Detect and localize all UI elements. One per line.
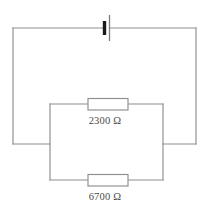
circuit-schematic-svg bbox=[0, 0, 210, 215]
resistor-top-label: 2300 Ω bbox=[0, 115, 210, 126]
resistor-bottom-label: 6700 Ω bbox=[0, 191, 210, 202]
resistor-top-body bbox=[88, 99, 128, 111]
circuit-diagram: 2300 Ω 6700 Ω bbox=[0, 0, 210, 215]
resistor-bottom-body bbox=[88, 175, 128, 187]
